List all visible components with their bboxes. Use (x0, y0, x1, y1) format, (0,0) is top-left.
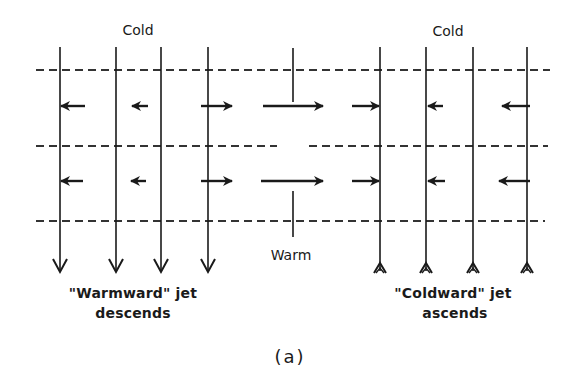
cold-label-right: Cold (432, 24, 463, 38)
cold-label-left: Cold (122, 23, 153, 37)
horizontal-flow-arrows (61, 106, 530, 181)
diagram-canvas (0, 0, 573, 383)
warmward-jet-label: "Warmward" jet (69, 286, 197, 300)
ascending-motion-lines (374, 47, 533, 273)
figure-caption: (a) (274, 348, 305, 366)
jet-streak-circulation-diagram: Cold Cold Warm "Warmward" jet descends "… (0, 0, 573, 383)
warm-label: Warm (271, 248, 312, 262)
coldward-jet-label: "Coldward" jet (394, 286, 511, 300)
warmward-descends-label: descends (95, 306, 171, 320)
coldward-ascends-label: ascends (422, 306, 487, 320)
descending-motion-lines (53, 47, 215, 272)
